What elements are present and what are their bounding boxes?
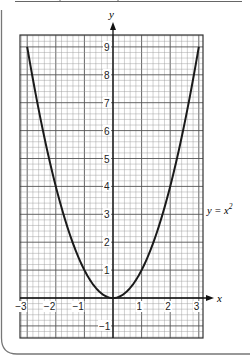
grid	[20, 35, 203, 338]
function-label: y = x2	[206, 202, 233, 216]
y-tick-label: 3	[104, 209, 110, 220]
x-tick-label: −3	[15, 301, 27, 312]
x-tick-label: 2	[165, 301, 171, 312]
y-tick-label: 9	[104, 42, 110, 53]
y-axis-label: y	[108, 8, 114, 20]
y-tick-label: 8	[104, 70, 110, 81]
y-tick-label: 6	[104, 126, 110, 137]
x-tick-label: 1	[137, 301, 143, 312]
y-tick-label: −1	[99, 321, 111, 332]
x-tick-label: 3	[194, 301, 200, 312]
graph-figure: −3−2−1123−1123456789 y x y = x2	[0, 0, 250, 357]
y-tick-label: 1	[104, 265, 110, 276]
table-remnant	[15, 0, 242, 2]
x-axis-label: x	[216, 292, 222, 304]
x-tick-label: −1	[72, 301, 84, 312]
y-tick-label: 2	[104, 237, 110, 248]
y-tick-label: 5	[104, 154, 110, 165]
y-tick-label: 7	[104, 98, 110, 109]
x-tick-label: −2	[44, 301, 56, 312]
y-tick-label: 4	[104, 181, 110, 192]
